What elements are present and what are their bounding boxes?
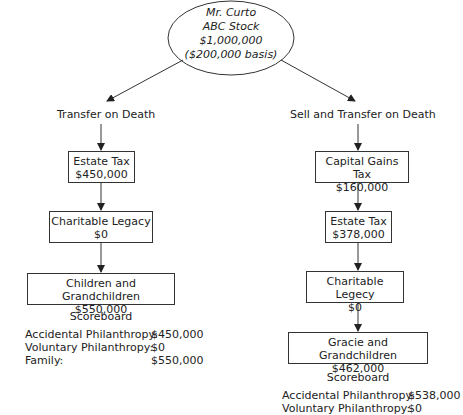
- box-amount: $378,000: [326, 228, 391, 241]
- score-label: Accidental Philanthropy:: [25, 328, 158, 341]
- score-label: Voluntary Philanthropy:: [25, 341, 153, 354]
- box-amount: $450,000: [69, 168, 134, 181]
- root-basis: ($200,000 basis): [168, 48, 294, 62]
- root-asset: ABC Stock: [168, 20, 294, 34]
- score-label: Accidental Philanthropy:: [282, 389, 415, 402]
- right-scoreboard-title: Scoreboard: [308, 371, 408, 384]
- box-amount: $160,000: [316, 181, 408, 194]
- score-value: $0: [151, 341, 165, 354]
- box-title: Charitable Legecy: [307, 275, 403, 301]
- left-heirs-box: Children and Grandchildren $550,000: [27, 273, 175, 305]
- box-amount: $0: [307, 301, 403, 314]
- box-title: Estate Tax: [69, 155, 134, 168]
- right-heirs-box: Gracie and Grandchildren $462,000: [288, 332, 428, 364]
- left-scoreboard-row: Voluntary Philanthropy: $0: [25, 341, 153, 354]
- right-scoreboard-row: Voluntary Philanthropy: $0: [282, 402, 410, 415]
- box-title: Gracie and Grandchildren: [289, 336, 427, 362]
- box-amount: $0: [50, 228, 152, 241]
- score-label: Family:: [25, 354, 63, 367]
- left-scoreboard-title: Scoreboard: [51, 310, 151, 323]
- box-title: Children and Grandchildren: [28, 277, 174, 303]
- right-capital-gains-box: Capital Gains Tax $160,000: [315, 151, 409, 183]
- score-value: $538,000: [408, 389, 461, 402]
- root-value: $1,000,000: [168, 34, 294, 48]
- right-estate-tax-box: Estate Tax $378,000: [325, 211, 392, 243]
- left-scoreboard-row: Accidental Philanthropy: $450,000: [25, 328, 158, 341]
- arrow-to-right-branch: [281, 60, 355, 101]
- score-value: $0: [408, 402, 422, 415]
- root-name: Mr. Curto: [168, 6, 294, 20]
- left-branch-label: Transfer on Death: [57, 108, 155, 121]
- right-scoreboard-row: Accidental Philanthropy: $538,000: [282, 389, 415, 402]
- score-label: Voluntary Philanthropy:: [282, 402, 410, 415]
- left-charitable-legacy-box: Charitable Legacy $0: [49, 211, 153, 243]
- right-branch-label: Sell and Transfer on Death: [290, 108, 436, 121]
- root-node: Mr. Curto ABC Stock $1,000,000 ($200,000…: [168, 6, 294, 62]
- arrow-to-left-branch: [107, 60, 183, 101]
- score-value: $450,000: [151, 328, 204, 341]
- left-estate-tax-box: Estate Tax $450,000: [68, 151, 135, 183]
- box-title: Capital Gains Tax: [316, 155, 408, 181]
- left-scoreboard-row: Family: $550,000: [25, 354, 63, 367]
- box-title: Estate Tax: [326, 215, 391, 228]
- score-value: $550,000: [151, 354, 204, 367]
- box-title: Charitable Legacy: [50, 215, 152, 228]
- right-charitable-legacy-box: Charitable Legecy $0: [306, 271, 404, 303]
